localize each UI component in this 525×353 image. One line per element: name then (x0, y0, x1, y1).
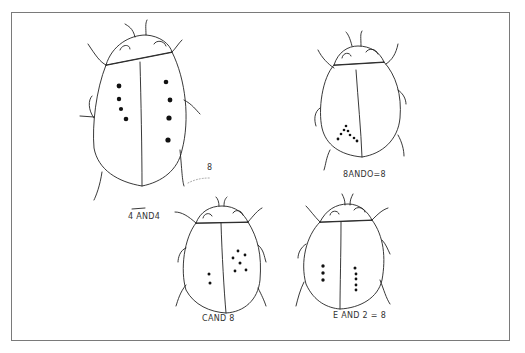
beetle-large (80, 20, 200, 200)
beetle-bottom-right (296, 194, 390, 309)
label-2-and-6: CAND 8 (202, 314, 235, 323)
label-stray-eight: 8 (207, 163, 212, 172)
beetle-bottom-center (175, 197, 266, 313)
ladybird-drawing (0, 0, 525, 353)
stray-dotted-mark (188, 178, 210, 183)
beetle-top-right (315, 31, 406, 170)
label-overline (132, 208, 145, 209)
label-4-and-4: 4 AND4 (128, 212, 160, 221)
label-3-and-5: E AND 2 = 8 (333, 311, 386, 320)
label-8-and-0: 8ANDO=8 (343, 170, 386, 179)
beetle-bottom-center-spots (208, 250, 248, 285)
beetle-bottom-right-spots (321, 264, 357, 291)
beetle-top-right-spots (337, 125, 359, 143)
beetle-large-spots (117, 80, 173, 143)
